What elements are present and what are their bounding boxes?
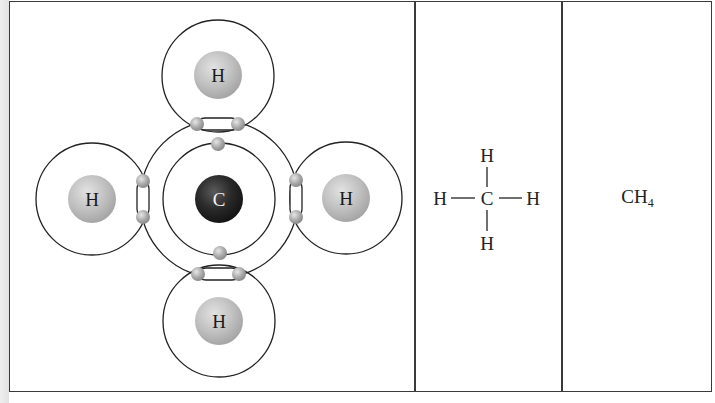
electron-dot-model-panel: H H H H C — [10, 1, 414, 392]
svg-text:H: H — [212, 311, 226, 332]
molecular-formula: CH4 — [562, 186, 713, 211]
svg-text:H: H — [85, 189, 99, 210]
structural-formula-panel: H H C H H — [416, 1, 561, 392]
formula-base: CH — [621, 186, 647, 207]
structural-bottom-h: H — [480, 233, 494, 254]
svg-text:H: H — [339, 188, 353, 209]
right-hydrogen-atom: H — [322, 174, 370, 222]
svg-text:C: C — [213, 189, 226, 210]
methane-shell-diagram: H H H H C — [10, 1, 414, 392]
carbon-atom: C — [195, 175, 243, 223]
page-margin — [0, 0, 9, 403]
structural-left-h: H — [433, 188, 447, 209]
structural-right-h: H — [526, 188, 540, 209]
structural-center-c: C — [481, 188, 494, 209]
left-hydrogen-atom: H — [68, 175, 116, 223]
svg-text:H: H — [211, 65, 225, 86]
structural-top-h: H — [480, 145, 494, 166]
bottom-hydrogen-atom: H — [195, 297, 243, 345]
top-hydrogen-atom: H — [194, 51, 242, 99]
formula-subscript: 4 — [648, 196, 654, 210]
structural-formula: H H C H H — [416, 1, 561, 392]
